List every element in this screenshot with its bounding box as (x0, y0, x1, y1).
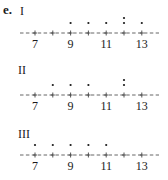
dot-plots: 791113791113791113 (0, 0, 168, 180)
tick-label: 13 (136, 37, 148, 51)
data-dot (87, 84, 89, 86)
data-dot (52, 84, 54, 86)
tick-label: 9 (68, 37, 74, 51)
tick-label: 13 (136, 99, 148, 113)
tick-label: 9 (68, 159, 74, 173)
data-dot (141, 22, 143, 24)
data-dot (70, 22, 72, 24)
tick-label: 7 (32, 37, 38, 51)
tick-label: 13 (136, 159, 148, 173)
data-dot (123, 79, 125, 81)
data-dot (123, 84, 125, 86)
tick-label: 7 (32, 99, 38, 113)
tick-label: 11 (100, 99, 112, 113)
tick-label: 11 (100, 37, 112, 51)
data-dot (70, 144, 72, 146)
data-dot (105, 22, 107, 24)
data-dot (52, 144, 54, 146)
data-dot (105, 144, 107, 146)
data-dot (70, 84, 72, 86)
tick-label: 11 (100, 159, 112, 173)
tick-label: 9 (68, 99, 74, 113)
data-dot (87, 144, 89, 146)
data-dot (87, 22, 89, 24)
data-dot (123, 22, 125, 24)
data-dot (34, 144, 36, 146)
data-dot (123, 17, 125, 19)
tick-label: 7 (32, 159, 38, 173)
